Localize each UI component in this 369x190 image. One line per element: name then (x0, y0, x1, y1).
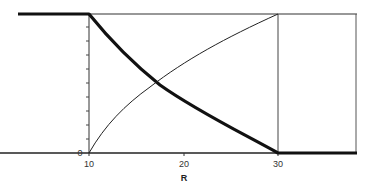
series-decreasing-thick (18, 14, 357, 153)
series-increasing-thin (89, 14, 278, 153)
x-tick-label-10: 10 (84, 159, 94, 169)
chart: 0 10 20 30 R (0, 0, 369, 190)
x-axis-title: R (181, 173, 188, 183)
y-tick-label-0: 0 (77, 148, 82, 158)
x-tick-label-20: 20 (179, 159, 189, 169)
x-tick-label-30: 30 (273, 159, 283, 169)
